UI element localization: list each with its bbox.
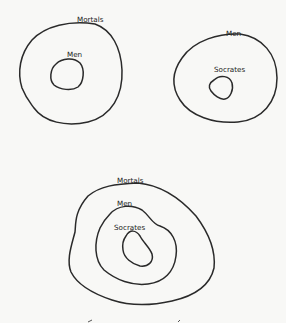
set-mortals-outline	[69, 183, 214, 305]
set-men-label: Men	[117, 199, 132, 208]
set-men-label: Men	[226, 29, 241, 38]
diagram-mortals-men-socrates: Mortals Men Socrates	[69, 176, 214, 305]
set-mortals-label: Mortals	[77, 15, 104, 24]
set-socrates-outline	[123, 231, 153, 266]
cropped-caption-marks	[88, 320, 180, 322]
set-socrates-outline	[209, 76, 232, 99]
set-men-outline	[174, 34, 277, 122]
set-socrates-label: Socrates	[214, 65, 246, 74]
diagram-mortals-contain-men: Mortals Men	[20, 15, 122, 124]
set-mortals-label: Mortals	[117, 176, 144, 185]
set-mortals-outline	[20, 23, 122, 124]
set-socrates-label: Socrates	[114, 223, 146, 232]
diagram-men-contain-socrates: Men Socrates	[174, 29, 277, 122]
set-men-outline	[51, 59, 83, 89]
syllogism-euler-diagrams: Mortals Men Men Socrates Mortals Men Soc…	[0, 0, 286, 323]
set-men-label: Men	[67, 50, 82, 59]
set-men-outline	[96, 206, 176, 284]
